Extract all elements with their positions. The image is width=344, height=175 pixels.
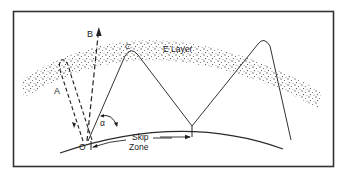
label-zone: Zone [129,142,149,152]
label-alpha: α [100,118,105,128]
angle-arrow-icon [114,122,118,127]
label-a: A [54,86,60,96]
label-origin: O [79,142,86,152]
label-b: B [87,29,93,39]
earth-surface [60,131,283,153]
skip-zone-arrow-right-icon [185,135,191,139]
skip-zone-arrow-left-icon [92,144,98,148]
label-c: C [125,42,131,51]
ray-b-arrow-icon [96,27,102,36]
skip-zone-arrow-left [93,140,126,147]
label-e-layer: E Layer [163,44,192,54]
skywave-skip-zone-diagram: B A C E Layer O α Skip Zone [0,0,344,175]
ray-a-arrow-icon [72,122,76,128]
angle-arrow-icon-2 [100,114,104,118]
label-skip: Skip [132,132,149,142]
